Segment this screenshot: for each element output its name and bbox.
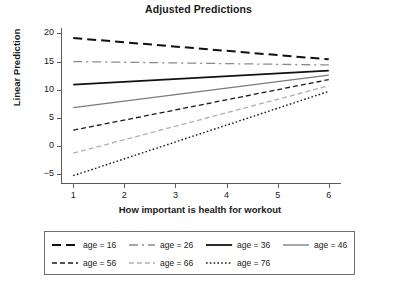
legend-row: age = 56age = 66age = 76	[52, 254, 348, 272]
y-tick-label: 5	[14, 113, 54, 122]
chart-figure: Adjusted Predictions Linear Prediction H…	[0, 0, 397, 283]
x-axis-label: How important is health for workout	[40, 204, 360, 215]
chart-legend: age = 16age = 26age = 36age = 46 age = 5…	[44, 231, 355, 275]
legend-line-swatch	[283, 240, 309, 250]
legend-entry[interactable]: age = 36	[206, 240, 283, 250]
legend-entry[interactable]: age = 16	[52, 240, 129, 250]
legend-line-swatch	[52, 240, 78, 250]
series-line-age-46	[73, 75, 329, 108]
y-tick-label: 20	[14, 28, 54, 37]
legend-line-swatch	[129, 258, 155, 268]
plot-area	[62, 29, 340, 183]
series-line-age-16	[73, 38, 329, 59]
legend-entry[interactable]: age = 76	[206, 258, 283, 268]
series-lines	[58, 23, 348, 193]
series-line-age-76	[73, 91, 329, 175]
chart-title: Adjusted Predictions	[0, 3, 397, 15]
legend-label: age = 66	[160, 258, 193, 268]
series-line-age-56	[73, 80, 329, 131]
series-line-age-36	[73, 71, 329, 85]
legend-label: age = 26	[160, 240, 193, 250]
legend-row: age = 16age = 26age = 36age = 46	[52, 236, 348, 254]
y-tick-label: 15	[14, 57, 54, 66]
y-tick-label: −5	[14, 169, 54, 178]
legend-entry[interactable]: age = 26	[129, 240, 206, 250]
legend-entry[interactable]: age = 56	[52, 258, 129, 268]
y-tick-label: 0	[14, 141, 54, 150]
y-tick-label: 10	[14, 85, 54, 94]
legend-line-swatch	[129, 240, 155, 250]
legend-label: age = 36	[237, 240, 270, 250]
legend-label: age = 76	[237, 258, 270, 268]
legend-label: age = 16	[83, 240, 116, 250]
legend-line-swatch	[206, 240, 232, 250]
y-axis-label: Linear Prediction	[11, 8, 22, 128]
series-line-age-66	[73, 86, 329, 153]
legend-entry[interactable]: age = 46	[283, 240, 360, 250]
legend-line-swatch	[52, 258, 78, 268]
legend-label: age = 56	[83, 258, 116, 268]
legend-line-swatch	[206, 258, 232, 268]
legend-entry[interactable]: age = 66	[129, 258, 206, 268]
legend-label: age = 46	[314, 240, 347, 250]
series-line-age-26	[73, 62, 329, 65]
